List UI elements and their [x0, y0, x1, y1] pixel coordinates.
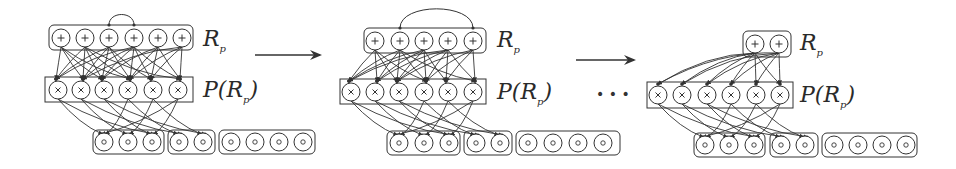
- leaf-node: [95, 133, 113, 151]
- edge-endpoint: [473, 79, 476, 82]
- leaf-node: [246, 133, 264, 151]
- panel-1: RpP(Rp): [45, 15, 315, 155]
- leaf-node: [143, 133, 161, 151]
- leaf-node: [222, 133, 240, 151]
- leaf-node: [544, 134, 562, 152]
- edge-endpoint: [128, 77, 131, 80]
- leaf-node: [873, 136, 891, 154]
- arc-endpoint: [398, 26, 401, 29]
- leaf-node: [491, 134, 509, 152]
- leaf-node: [849, 136, 867, 154]
- edge-arrow: [375, 50, 397, 81]
- edge-endpoint: [54, 77, 57, 80]
- panel-3: RpP(Rp): [647, 30, 917, 157]
- edge-arrow: [180, 47, 182, 79]
- edge-arrow: [130, 47, 182, 79]
- edge-arrow: [349, 50, 375, 81]
- leaf-node: [270, 133, 288, 151]
- edge-arrow: [61, 47, 102, 79]
- edge-endpoint: [705, 82, 708, 85]
- edge-endpoint: [444, 79, 447, 82]
- edge-endpoint: [149, 77, 152, 80]
- leaf-node: [440, 134, 458, 152]
- edge-arrow: [755, 53, 756, 84]
- edge-endpoint: [424, 79, 427, 82]
- leaf-node: [796, 136, 814, 154]
- leaf-node: [119, 133, 137, 151]
- leaf-node: [467, 134, 485, 152]
- panel-2: RpP(Rp): [340, 9, 620, 155]
- edge-arrow: [446, 50, 448, 81]
- product-layer-label: P(Rp): [799, 82, 855, 110]
- edge-arrow: [779, 53, 780, 84]
- edge-arrow: [446, 50, 473, 81]
- edge-endpoint: [178, 77, 181, 80]
- edge-endpoint: [656, 82, 659, 85]
- edge-endpoint: [778, 82, 781, 85]
- edge-arrow: [397, 50, 400, 81]
- leaf-node: [594, 134, 612, 152]
- label-subscript: p: [220, 43, 227, 54]
- edge-endpoint: [347, 79, 350, 82]
- leaf-node: [720, 136, 738, 154]
- leaf-node: [415, 134, 433, 152]
- leaf-node: [194, 133, 212, 151]
- sum-link-arc: [109, 15, 134, 26]
- leaf-node: [825, 136, 843, 154]
- network-transformation-diagram: RpP(Rp)RpP(Rp)RpP(Rp) • • •: [0, 0, 956, 169]
- edge-arrow: [658, 104, 703, 137]
- edge-endpoint: [100, 77, 103, 80]
- edge-endpoint: [395, 79, 398, 82]
- sum-layer-box: [49, 25, 193, 50]
- edge-endpoint: [375, 79, 378, 82]
- leaf-node: [696, 136, 714, 154]
- product-layer-label: P(Rp): [496, 79, 552, 107]
- edge-arrow: [104, 99, 150, 134]
- sum-layer-label: Rp: [202, 26, 227, 54]
- sum-layer-label: Rp: [496, 27, 521, 55]
- leaf-node: [745, 136, 763, 154]
- arc-endpoint: [471, 26, 474, 29]
- edge-arrow: [58, 99, 102, 134]
- ellipsis: • • •: [596, 86, 630, 102]
- node-layer: RpP(Rp)RpP(Rp)RpP(Rp): [45, 9, 917, 157]
- edge-arrow: [151, 47, 182, 79]
- leaf-node: [772, 136, 790, 154]
- arc-endpoint: [107, 23, 110, 26]
- product-layer-label: P(Rp): [202, 77, 258, 105]
- leaf-node: [390, 134, 408, 152]
- leaf-node: [170, 133, 188, 151]
- leaf-node: [897, 136, 915, 154]
- edge-arrow: [397, 50, 424, 81]
- edge-arrow: [682, 53, 779, 84]
- label-subscript: p: [817, 47, 824, 58]
- sum-link-arc: [400, 9, 473, 28]
- leaf-node: [519, 134, 537, 152]
- edge-arrow: [351, 101, 397, 135]
- sum-layer-label: Rp: [799, 30, 824, 58]
- edge-arrow: [397, 50, 473, 81]
- edge-endpoint: [680, 82, 683, 85]
- label-subscript: p: [514, 44, 521, 55]
- leaf-node: [294, 133, 312, 151]
- edge-endpoint: [754, 82, 757, 85]
- edge-endpoint: [81, 77, 84, 80]
- edge-endpoint: [729, 82, 732, 85]
- edge-arrow: [473, 50, 475, 81]
- leaf-node: [569, 134, 587, 152]
- arc-endpoint: [132, 23, 135, 26]
